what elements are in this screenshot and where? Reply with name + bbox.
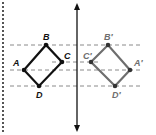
vertex-d xyxy=(37,84,42,89)
label-a-prime: A′ xyxy=(133,58,143,68)
vertex-b-prime xyxy=(106,43,111,48)
label-b-prime: B′ xyxy=(104,32,113,42)
reflection-diagram: A B C D A′ B′ C′ D′ xyxy=(0,0,156,135)
label-b: B xyxy=(43,32,50,42)
label-d-prime: D′ xyxy=(112,90,121,100)
mirror-arrow-up-icon xyxy=(74,3,80,10)
vertex-b xyxy=(44,43,49,48)
label-a: A xyxy=(12,58,20,68)
original-quadrilateral xyxy=(24,45,62,86)
label-c: C xyxy=(64,51,71,61)
vertex-d-prime xyxy=(113,84,118,89)
mirror-arrow-down-icon xyxy=(74,125,80,132)
vertex-a-prime xyxy=(128,68,133,73)
vertex-a xyxy=(22,68,27,73)
image-quadrilateral xyxy=(91,45,130,86)
label-c-prime: C′ xyxy=(83,51,92,61)
label-d: D xyxy=(36,90,43,100)
